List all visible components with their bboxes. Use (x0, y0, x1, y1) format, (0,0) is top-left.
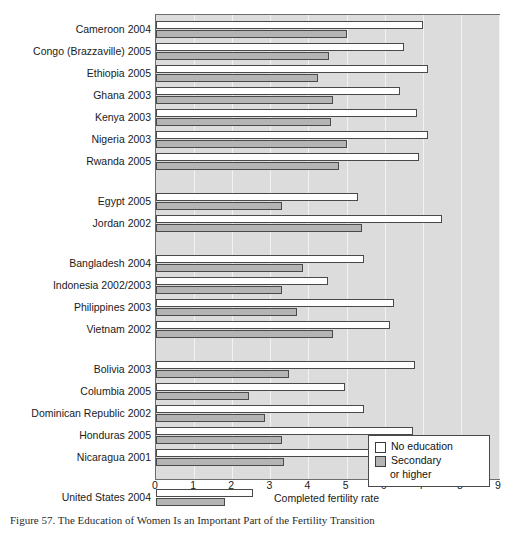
bar-row (156, 193, 499, 201)
x-tick-label: 1 (190, 479, 196, 491)
bar-row (156, 21, 499, 29)
bar-secondary-or-higher (156, 202, 282, 210)
bar-row (156, 65, 499, 73)
legend-item-secondary: Secondary (375, 454, 483, 467)
bar-row (156, 43, 499, 51)
bar-secondary-or-higher (156, 370, 289, 378)
bar-row (156, 118, 499, 126)
x-tick-label: 2 (228, 479, 234, 491)
bar-rows (156, 15, 499, 479)
category-label: Nicaragua 2001 (3, 452, 155, 463)
category-label: Rwanda 2005 (3, 156, 155, 167)
category-label: Nigeria 2003 (3, 134, 155, 145)
x-axis-title: Completed fertility rate (155, 492, 498, 504)
bar-row (156, 109, 499, 117)
legend-label-or-higher: or higher (390, 468, 483, 480)
bar-row (156, 52, 499, 60)
category-label: Philippines 2003 (3, 302, 155, 313)
bar-no-education (156, 277, 328, 285)
bar-row (156, 140, 499, 148)
x-tick-label: 0 (152, 479, 158, 491)
category-label: United States 2004 (3, 492, 155, 503)
category-label: Honduras 2005 (3, 430, 155, 441)
bar-row (156, 414, 499, 422)
bar-row (156, 405, 499, 413)
figure-caption: Figure 57. The Education of Women Is an … (10, 514, 520, 527)
category-label: Indonesia 2002/2003 (3, 280, 155, 291)
bar-secondary-or-higher (156, 52, 329, 60)
bar-secondary-or-higher (156, 330, 333, 338)
category-label: Vietnam 2002 (3, 324, 155, 335)
bar-secondary-or-higher (156, 74, 318, 82)
bar-row (156, 392, 499, 400)
bar-secondary-or-higher (156, 30, 347, 38)
bar-row (156, 321, 499, 329)
legend: No education Secondary or higher (368, 435, 490, 487)
bar-no-education (156, 215, 442, 223)
bar-row (156, 427, 499, 435)
legend-swatch-secondary-icon (375, 456, 386, 467)
bar-no-education (156, 427, 413, 435)
bar-no-education (156, 255, 364, 263)
bar-row (156, 330, 499, 338)
bar-secondary-or-higher (156, 140, 347, 148)
bar-secondary-or-higher (156, 458, 284, 466)
bar-row (156, 224, 499, 232)
bar-row (156, 153, 499, 161)
bar-row (156, 30, 499, 38)
bar-secondary-or-higher (156, 414, 265, 422)
bar-no-education (156, 383, 345, 391)
bar-row (156, 87, 499, 95)
bar-row (156, 383, 499, 391)
bar-no-education (156, 193, 358, 201)
bar-row (156, 277, 499, 285)
bar-secondary-or-higher (156, 96, 333, 104)
category-label: Egypt 2005 (3, 196, 155, 207)
bar-no-education (156, 361, 415, 369)
category-axis-labels: Cameroon 2004Congo (Brazzaville) 2005Eth… (0, 14, 155, 478)
category-label: Dominican Republic 2002 (3, 408, 155, 419)
bar-secondary-or-higher (156, 286, 282, 294)
category-label: Columbia 2005 (3, 386, 155, 397)
category-label: Jordan 2002 (3, 218, 155, 229)
bar-secondary-or-higher (156, 224, 362, 232)
chart-figure: Cameroon 2004Congo (Brazzaville) 2005Eth… (0, 0, 527, 536)
x-tick-label: 4 (305, 479, 311, 491)
category-label: Ethiopia 2005 (3, 68, 155, 79)
gridline (499, 15, 500, 479)
bar-secondary-or-higher (156, 264, 303, 272)
bar-row (156, 308, 499, 316)
bar-row (156, 202, 499, 210)
x-tick-label: 9 (495, 479, 501, 491)
x-tick-label: 3 (266, 479, 272, 491)
bar-no-education (156, 153, 419, 161)
category-label: Kenya 2003 (3, 112, 155, 123)
bar-no-education (156, 299, 394, 307)
legend-label-secondary: Secondary (391, 454, 441, 466)
legend-label-no-education: No education (391, 440, 453, 452)
category-label: Bolivia 2003 (3, 364, 155, 375)
bar-row (156, 215, 499, 223)
bar-row (156, 96, 499, 104)
bar-no-education (156, 87, 400, 95)
bar-secondary-or-higher (156, 308, 297, 316)
legend-item-no-education: No education (375, 440, 483, 453)
legend-swatch-no-education-icon (375, 442, 386, 453)
bar-no-education (156, 109, 417, 117)
category-label: Ghana 2003 (3, 90, 155, 101)
bar-secondary-or-higher (156, 162, 339, 170)
bar-row (156, 361, 499, 369)
category-label: Bangladesh 2004 (3, 258, 155, 269)
plot-area (155, 14, 500, 480)
bar-row (156, 255, 499, 263)
bar-no-education (156, 321, 390, 329)
bar-row (156, 131, 499, 139)
bar-row (156, 264, 499, 272)
bar-row (156, 286, 499, 294)
category-label: Cameroon 2004 (3, 24, 155, 35)
bar-secondary-or-higher (156, 118, 331, 126)
bar-no-education (156, 65, 428, 73)
bar-secondary-or-higher (156, 392, 249, 400)
bar-row (156, 162, 499, 170)
bar-no-education (156, 21, 423, 29)
